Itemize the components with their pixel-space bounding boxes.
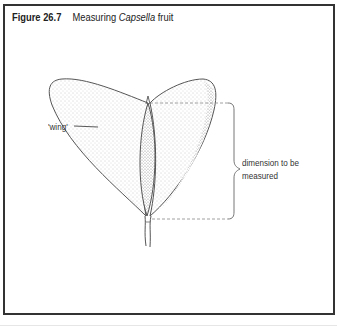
wing-label: 'wing'	[48, 120, 68, 133]
dimension-label-line1: dimension to be	[242, 156, 299, 169]
left-wing	[49, 79, 148, 216]
page-divider	[0, 325, 337, 326]
measurement-brace	[228, 103, 240, 219]
dimension-label-line2: measured	[242, 169, 299, 182]
stalk	[145, 216, 151, 247]
right-wing	[150, 79, 216, 216]
dimension-label: dimension to be measured	[242, 156, 299, 182]
